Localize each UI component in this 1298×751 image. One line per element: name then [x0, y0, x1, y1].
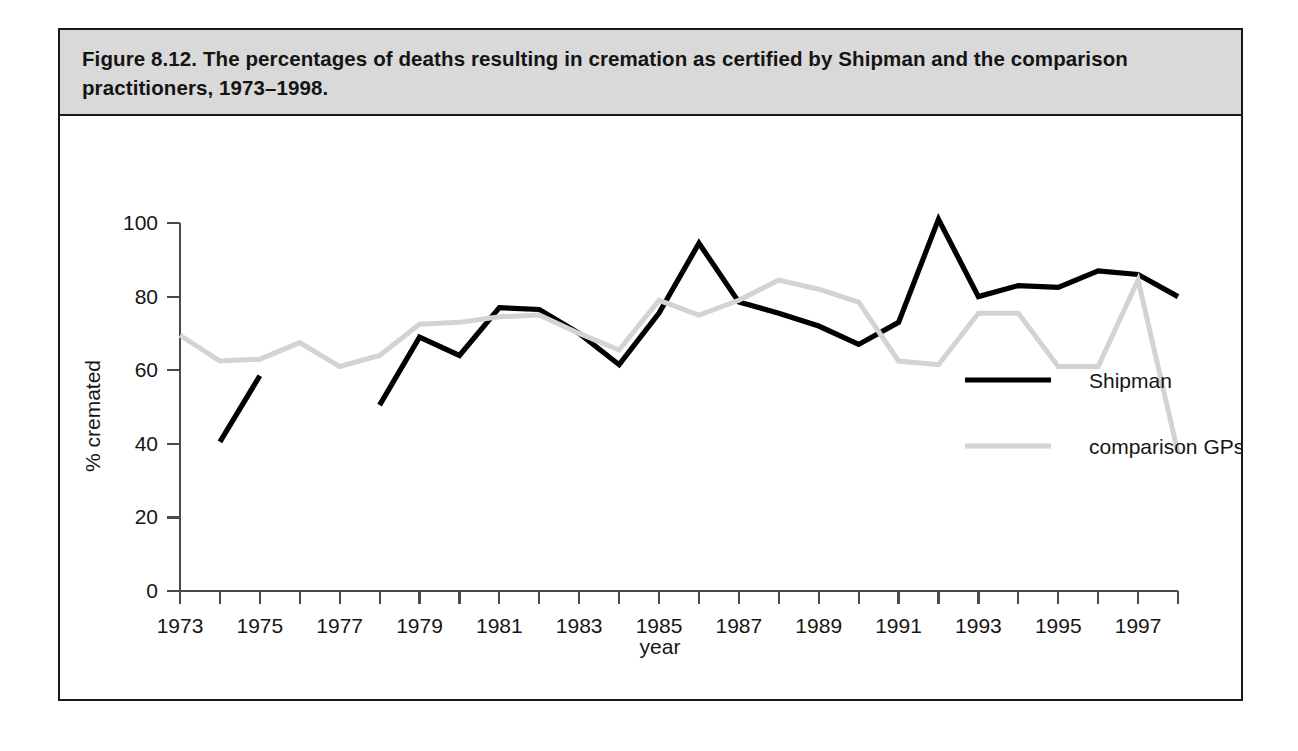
x-tick-label: 1997 — [1115, 614, 1162, 637]
x-axis: 1973197519771979198119831985198719891991… — [157, 591, 1178, 637]
x-tick-label: 1985 — [636, 614, 683, 637]
series-line-comparison-gps — [180, 280, 1178, 453]
y-tick-label: 100 — [123, 211, 158, 234]
x-tick-label: 1979 — [396, 614, 443, 637]
x-axis-title: year — [640, 635, 681, 658]
figure-caption-text: Figure 8.12. The percentages of deaths r… — [82, 44, 1219, 102]
x-tick-label: 1983 — [556, 614, 603, 637]
series-line-shipman — [220, 376, 260, 442]
y-tick-label: 60 — [135, 358, 158, 381]
x-tick-label: 1981 — [476, 614, 523, 637]
x-tick-label: 1991 — [875, 614, 922, 637]
y-tick-label: 80 — [135, 285, 158, 308]
figure-caption-bar: Figure 8.12. The percentages of deaths r… — [60, 30, 1241, 116]
y-tick-label: 0 — [146, 579, 158, 602]
x-tick-label: 1973 — [157, 614, 204, 637]
plot-area: 020406080100 197319751977197919811983198… — [60, 116, 1241, 701]
series-line-shipman — [380, 219, 1178, 405]
x-tick-label: 1977 — [316, 614, 363, 637]
data-series-group — [180, 219, 1178, 453]
legend-label-comparison-gps: comparison GPs — [1089, 435, 1241, 458]
x-tick-label: 1993 — [955, 614, 1002, 637]
x-tick-label: 1989 — [795, 614, 842, 637]
x-tick-label: 1995 — [1035, 614, 1082, 637]
y-tick-label: 40 — [135, 432, 158, 455]
y-axis-title: % cremated — [81, 360, 104, 472]
line-chart: 020406080100 197319751977197919811983198… — [60, 116, 1241, 701]
figure-container: Figure 8.12. The percentages of deaths r… — [58, 28, 1243, 701]
y-axis: 020406080100 — [123, 211, 180, 602]
x-tick-label: 1975 — [236, 614, 283, 637]
chart-legend: Shipmancomparison GPs — [965, 369, 1241, 458]
y-tick-label: 20 — [135, 505, 158, 528]
x-tick-label: 1987 — [716, 614, 763, 637]
legend-label-shipman: Shipman — [1089, 369, 1172, 392]
